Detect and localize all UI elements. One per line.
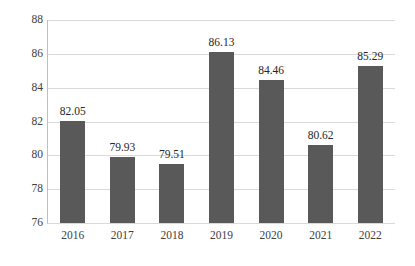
bar-value-label: 86.13: [192, 37, 252, 49]
y-axis-tick-label: 86: [3, 48, 43, 60]
bar[interactable]: [358, 66, 383, 223]
y-axis-tick-label: 76: [3, 217, 43, 229]
x-axis-tick-label: 2022: [340, 230, 400, 242]
bar-value-label: 79.51: [142, 149, 202, 161]
bar[interactable]: [110, 157, 135, 223]
bar-value-label: 80.62: [291, 130, 351, 142]
y-axis-tick-label: 88: [3, 14, 43, 26]
y-axis-tick-label: 84: [3, 82, 43, 94]
y-axis-tick-label: 82: [3, 116, 43, 128]
bar-value-label: 82.05: [43, 106, 103, 118]
bar[interactable]: [259, 80, 284, 223]
bar-value-label: 84.46: [241, 65, 301, 77]
bar[interactable]: [159, 164, 184, 223]
bar[interactable]: [60, 121, 85, 223]
y-axis-tick-labels: 76788082848688: [0, 0, 43, 266]
y-axis-tick-label: 78: [3, 183, 43, 195]
bar[interactable]: [209, 52, 234, 223]
bar[interactable]: [308, 145, 333, 223]
gridline: [48, 20, 395, 21]
y-axis-tick-label: 80: [3, 150, 43, 162]
bar-chart: 76788082848688 82.05201679.93201779.5120…: [0, 0, 415, 266]
bar-value-label: 85.29: [340, 51, 400, 63]
gridline: [48, 223, 395, 224]
